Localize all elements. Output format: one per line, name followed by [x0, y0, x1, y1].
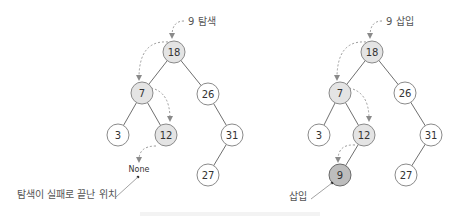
node-18: 18: [163, 41, 185, 63]
left-tree-search: 9 탐색 18 7 26 3 12 31 27 None 탐색이 실패로 끝난 …: [17, 16, 243, 200]
svg-text:7: 7: [337, 88, 343, 99]
svg-text:3: 3: [115, 130, 121, 141]
bst-diagram: 9 탐색 18 7 26 3 12 31 27 None 탐색이 실패로 끝난 …: [0, 0, 452, 219]
svg-text:18: 18: [168, 47, 181, 58]
svg-text:27: 27: [400, 170, 413, 181]
svg-text:18: 18: [366, 47, 379, 58]
insert-leader-line: [311, 183, 332, 199]
svg-text:12: 12: [160, 130, 173, 141]
failure-leader-line: [116, 177, 138, 197]
svg-text:27: 27: [202, 170, 215, 181]
svg-text:31: 31: [226, 130, 239, 141]
node-3: 3: [308, 124, 330, 146]
node-3: 3: [107, 124, 129, 146]
node-12: 12: [353, 124, 375, 146]
node-31: 31: [221, 124, 243, 146]
node-27: 27: [395, 164, 417, 186]
node-27: 27: [197, 164, 219, 186]
insert-annotation: 삽입: [289, 190, 307, 202]
svg-text:26: 26: [202, 89, 215, 100]
svg-text:26: 26: [399, 88, 412, 99]
insert-title: 9 삽입: [386, 15, 414, 27]
svg-text:9: 9: [337, 170, 343, 181]
node-7: 7: [329, 82, 351, 104]
search-title: 9 탐색: [188, 16, 216, 27]
node-7: 7: [131, 82, 153, 104]
right-tree-insert: 9 삽입 18 7 26 3 12 31 27 9 삽입: [289, 15, 442, 202]
node-18: 18: [361, 41, 383, 63]
svg-text:12: 12: [358, 130, 371, 141]
none-label: None: [129, 165, 150, 174]
insert-start-arrow: [370, 21, 382, 36]
node-31: 31: [420, 124, 442, 146]
svg-text:31: 31: [425, 130, 438, 141]
insert-arrow-12-to-9: [338, 145, 355, 160]
node-26: 26: [197, 83, 219, 105]
search-start-arrow: [172, 21, 184, 36]
svg-text:7: 7: [139, 88, 145, 99]
svg-text:3: 3: [316, 130, 322, 141]
search-arrow-12-to-none: [139, 146, 156, 160]
node-12: 12: [155, 124, 177, 146]
faint-caption-strip: [140, 212, 320, 216]
failure-annotation: 탐색이 실패로 끝난 위치: [17, 188, 117, 200]
node-26: 26: [394, 82, 416, 104]
